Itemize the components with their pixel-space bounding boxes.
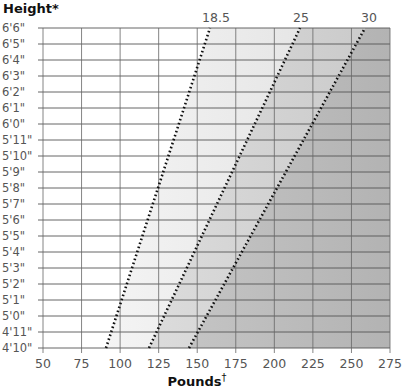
x-tick-label: 175 (224, 356, 248, 371)
y-tick-label: 6'2" (2, 85, 25, 99)
y-tick-label: 4'11" (2, 325, 32, 339)
y-tick-label: 6'4" (2, 53, 25, 67)
x-tick-label: 75 (74, 356, 90, 371)
x-tick-label: 275 (378, 356, 402, 371)
x-tick-label: 150 (185, 356, 209, 371)
x-axis-title: Pounds† (167, 372, 226, 389)
y-tick-label: 4'10" (2, 341, 32, 355)
bmi-25-label: 25 (293, 10, 309, 25)
x-tick-label: 125 (147, 356, 171, 371)
y-tick-label: 5'11" (2, 133, 32, 147)
y-tick-label: 5'5" (2, 229, 25, 243)
y-tick-label: 5'6" (2, 213, 25, 227)
y-tick-label: 5'2" (2, 277, 25, 291)
y-axis-labels: 6'6"6'5"6'4"6'3"6'2"6'1"6'0"5'11"5'10"5'… (2, 21, 32, 355)
bmi-18-5-label: 18.5 (202, 10, 230, 25)
y-tick-label: 6'6" (2, 21, 25, 35)
x-axis-title-text: Pounds (167, 374, 221, 389)
y-tick-label: 5'10" (2, 149, 32, 163)
y-tick-label: 5'9" (2, 165, 25, 179)
x-tick-label: 250 (340, 356, 364, 371)
y-tick-label: 5'8" (2, 181, 25, 195)
y-tick-label: 6'1" (2, 101, 25, 115)
y-tick-label: 5'1" (2, 293, 25, 307)
x-tick-label: 100 (108, 356, 132, 371)
bmi-chart: 18.5 25 30 Height* Pounds† 6'6"6'5"6'4"6… (0, 0, 407, 392)
y-tick-label: 6'5" (2, 37, 25, 51)
y-tick-label: 5'3" (2, 261, 25, 275)
y-axis-title: Height* (3, 1, 59, 16)
x-tick-label: 225 (301, 356, 325, 371)
x-tick-label: 50 (35, 356, 51, 371)
x-tick-label: 200 (262, 356, 286, 371)
y-tick-label: 6'3" (2, 69, 25, 83)
horizontal-gridlines (38, 28, 390, 348)
y-tick-label: 5'4" (2, 245, 25, 259)
y-tick-label: 5'7" (2, 197, 25, 211)
dagger-mark: † (222, 372, 227, 383)
y-tick-label: 6'0" (2, 117, 25, 131)
y-tick-label: 5'0" (2, 309, 25, 323)
x-axis-labels: 5075100125150175200225250275 (35, 356, 402, 371)
bmi-30-label: 30 (361, 10, 377, 25)
